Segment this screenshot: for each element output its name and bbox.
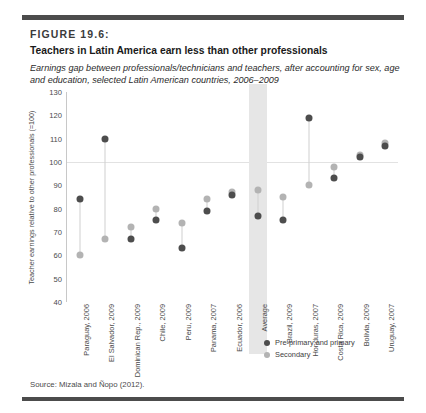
data-column <box>271 92 296 302</box>
data-point-primary <box>204 208 211 215</box>
data-point-secondary <box>305 182 312 189</box>
connector-line <box>308 118 309 186</box>
y-tick-80: 80 <box>54 204 62 213</box>
y-tick-90: 90 <box>54 181 62 190</box>
data-point-secondary <box>280 194 287 201</box>
figure-number: FIGURE 19.6: <box>30 28 402 40</box>
data-column <box>92 92 117 302</box>
legend-item-primary: Pre-primary and primary <box>264 338 355 347</box>
plot-axes: 405060708090100110120130 <box>42 92 400 302</box>
data-point-secondary <box>178 219 185 226</box>
x-tick-label: Chile, 2009 <box>158 304 167 341</box>
y-tick-50: 50 <box>54 274 62 283</box>
y-tick-60: 60 <box>54 251 62 260</box>
data-column <box>220 92 245 302</box>
data-column <box>296 92 321 302</box>
chart-legend: Pre-primary and primary Secondary <box>264 338 355 362</box>
data-point-primary <box>102 135 109 142</box>
data-column <box>347 92 372 302</box>
figure-subtitle: Earnings gap between professionals/techn… <box>30 62 402 86</box>
y-tick-70: 70 <box>54 228 62 237</box>
x-tick-label: Paraguay, 2006 <box>82 304 91 356</box>
figure-panel: FIGURE 19.6: Teachers in Latin America e… <box>0 0 426 413</box>
x-tick-label: Dominican Rep., 2009 <box>133 304 142 377</box>
plot-canvas <box>66 92 398 302</box>
figure-title: Teachers in Latin America earn less than… <box>30 45 402 58</box>
data-point-secondary <box>254 187 261 194</box>
data-column <box>143 92 168 302</box>
y-tick-100: 100 <box>49 158 62 167</box>
data-point-primary <box>178 245 185 252</box>
figure-header: FIGURE 19.6: Teachers in Latin America e… <box>30 28 402 86</box>
x-tick-label: Uruguay, 2007 <box>387 304 396 352</box>
x-tick-label: Peru, 2009 <box>184 304 193 340</box>
y-axis-title: Teacher earnings relative to other profe… <box>24 92 38 302</box>
data-point-secondary <box>204 196 211 203</box>
legend-dot-dark-icon <box>264 340 270 346</box>
x-tick-label: El Salvador, 2009 <box>107 304 116 362</box>
data-column <box>322 92 347 302</box>
data-point-primary <box>382 142 389 149</box>
data-point-secondary <box>76 252 83 259</box>
data-point-secondary <box>331 163 338 170</box>
data-column <box>245 92 270 302</box>
legend-dot-light-icon <box>264 352 270 358</box>
bottom-rule <box>22 397 404 401</box>
data-point-primary <box>127 236 134 243</box>
data-column <box>373 92 398 302</box>
top-rule <box>22 15 404 20</box>
data-point-primary <box>331 175 338 182</box>
y-tick-110: 110 <box>50 134 62 143</box>
data-column <box>118 92 143 302</box>
data-column <box>169 92 194 302</box>
x-tick-label: Average <box>260 304 269 331</box>
connector-line <box>105 139 106 239</box>
data-point-primary <box>254 212 261 219</box>
data-point-primary <box>305 114 312 121</box>
data-point-secondary <box>127 224 134 231</box>
data-point-primary <box>356 154 363 161</box>
data-point-primary <box>229 191 236 198</box>
source-note: Source: Mizala and Ñopo (2012). <box>30 380 144 389</box>
y-axis-title-text: Teacher earnings relative to other profe… <box>27 110 36 284</box>
data-column <box>67 92 92 302</box>
connector-line <box>79 199 80 255</box>
x-tick-label: Bolivia, 2009 <box>362 304 371 346</box>
data-point-secondary <box>102 236 109 243</box>
data-point-secondary <box>153 205 160 212</box>
legend-label-secondary: Secondary <box>275 350 310 359</box>
legend-item-secondary: Secondary <box>264 350 355 359</box>
x-tick-label: Ecuador, 2006 <box>235 304 244 352</box>
data-point-primary <box>76 196 83 203</box>
x-tick-label: Panama, 2007 <box>209 304 218 352</box>
y-axis-tick-labels: 405060708090100110120130 <box>42 92 64 302</box>
legend-label-primary: Pre-primary and primary <box>275 338 355 347</box>
chart-area: Teacher earnings relative to other profe… <box>28 92 400 362</box>
y-tick-120: 120 <box>49 111 62 120</box>
data-column <box>194 92 219 302</box>
data-point-primary <box>280 217 287 224</box>
data-point-primary <box>153 217 160 224</box>
y-tick-130: 130 <box>49 88 62 97</box>
y-tick-40: 40 <box>54 298 62 307</box>
